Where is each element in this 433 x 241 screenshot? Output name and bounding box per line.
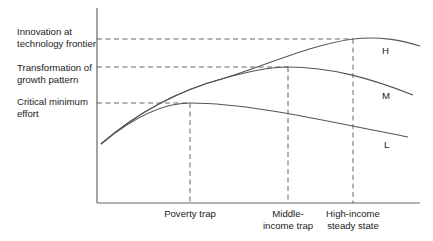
x-label-high-income-line1: High-income [326, 208, 380, 220]
y-label-critical-line2: effort [17, 108, 88, 120]
curve-l [101, 103, 408, 144]
y-label-critical-line1: Critical minimum [17, 96, 88, 108]
x-label-middle-income-trap-line1: Middle- [263, 208, 313, 220]
x-label-poverty-trap: Poverty trap [164, 208, 216, 220]
y-label-innovation-line1: Innovation at [17, 26, 96, 38]
curve-label-l: L [384, 139, 389, 151]
curve-h [101, 38, 420, 144]
x-label-high-income-line2: steady state [326, 220, 380, 232]
x-label-poverty-trap-line1: Poverty trap [164, 208, 216, 220]
y-label-innovation: Innovation at technology frontier [17, 26, 96, 50]
y-label-innovation-line2: technology frontier [17, 38, 96, 50]
curve-label-h: H [382, 45, 389, 57]
y-label-critical: Critical minimum effort [17, 96, 88, 120]
y-label-transformation-line1: Transformation of [17, 62, 92, 74]
x-label-middle-income-trap-line2: income trap [263, 220, 313, 232]
curve-m [101, 67, 413, 144]
y-label-transformation-line2: growth pattern [17, 74, 92, 86]
curve-label-m: M [382, 90, 390, 102]
x-label-high-income: High-income steady state [326, 208, 380, 232]
x-label-middle-income-trap: Middle- income trap [263, 208, 313, 232]
y-label-transformation: Transformation of growth pattern [17, 62, 92, 86]
